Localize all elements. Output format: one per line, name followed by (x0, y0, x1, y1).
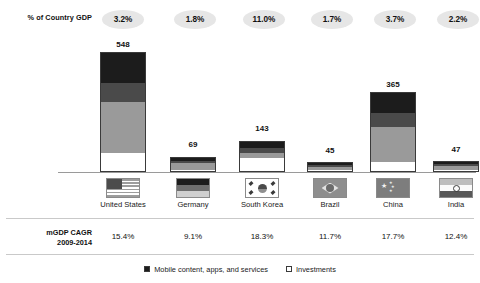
bar-value-india: 47 (433, 145, 479, 154)
bar-segment-4 (171, 170, 215, 171)
gdp-pill-china: 3.7% (374, 10, 416, 29)
bar-segment-3 (371, 127, 415, 162)
gdp-pill-brazil: 1.7% (311, 10, 353, 29)
country-label-brazil: Brazil (301, 200, 359, 209)
bar-stack-china (370, 92, 416, 172)
country-flags-row: United States Germany South Korea Brazil (0, 178, 480, 216)
cagr-value-india: 12.4% (427, 232, 480, 241)
bar-group-india[interactable]: 47 (433, 32, 479, 172)
flag-united-states-icon (106, 178, 140, 198)
bar-value-germany: 69 (170, 140, 216, 149)
country-cell-brazil[interactable]: Brazil (301, 178, 359, 209)
bar-stack-united-states (100, 52, 146, 172)
flag-south-korea-icon (245, 178, 279, 198)
cagr-value-germany: 9.1% (164, 232, 222, 241)
bar-stack-germany (170, 157, 216, 172)
bar-value-china: 365 (370, 80, 416, 89)
bar-group-south-korea[interactable]: 143 (239, 32, 285, 172)
cagr-row: mGDP CAGR2009-2014 15.4% 9.1% 18.3% 11.7… (0, 222, 480, 252)
table-divider-top (6, 218, 474, 219)
plot-area: mGDP contribution to GDP in 2014 ($billi… (0, 32, 480, 174)
cagr-value-south-korea: 18.3% (233, 232, 291, 241)
gdp-pill-south-korea: 11.0% (243, 10, 285, 29)
flag-india-icon (439, 178, 473, 198)
country-label-south-korea: South Korea (233, 200, 291, 209)
gdp-pill-united-states: 3.2% (102, 10, 144, 29)
bar-stack-south-korea (239, 141, 285, 172)
bar-segment-2 (101, 83, 145, 103)
country-label-china: China (364, 200, 422, 209)
gdp-percentage-row-label: % of Country GDP (6, 13, 92, 22)
legend-label-mobile-content: Mobile content, apps, and services (154, 265, 268, 274)
bar-group-germany[interactable]: 69 (170, 32, 216, 172)
flag-brazil-icon (313, 178, 347, 198)
mgdp-contribution-chart: % of Country GDP 3.2% 1.8% 11.0% 1.7% 3.… (0, 0, 480, 283)
legend-label-investments: Investments (296, 265, 336, 274)
chart-legend: Mobile content, apps, and services Inves… (0, 262, 480, 276)
bar-segment-4 (101, 153, 145, 171)
bar-group-brazil[interactable]: 45 (307, 32, 353, 172)
country-cell-germany[interactable]: Germany (164, 178, 222, 209)
country-label-united-states: United States (94, 200, 152, 209)
bar-stack-brazil (307, 162, 353, 172)
cagr-value-brazil: 11.7% (301, 232, 359, 241)
legend-item-mobile-content[interactable]: Mobile content, apps, and services (144, 265, 268, 274)
country-label-germany: Germany (164, 200, 222, 209)
bar-segment-2 (371, 113, 415, 127)
bar-segment-4 (434, 170, 478, 171)
country-cell-china[interactable]: ★ ★ ★ ★ China (364, 178, 422, 209)
gdp-pill-germany: 1.8% (174, 10, 216, 29)
bar-segment-1 (371, 93, 415, 113)
x-axis-baseline (58, 172, 476, 173)
bar-stack-india (433, 161, 479, 172)
bar-segment-1 (101, 53, 145, 83)
bar-segment-3 (101, 102, 145, 153)
bar-group-china[interactable]: 365 (370, 32, 416, 172)
cagr-value-china: 17.7% (364, 232, 422, 241)
country-label-india: India (427, 200, 480, 209)
bar-segment-4 (240, 158, 284, 171)
table-divider-bottom (6, 254, 474, 255)
white-square-icon (286, 266, 292, 272)
country-cell-united-states[interactable]: United States (94, 178, 152, 209)
black-square-icon (144, 266, 150, 272)
bar-value-brazil: 45 (307, 146, 353, 155)
country-cell-south-korea[interactable]: South Korea (233, 178, 291, 209)
country-cell-india[interactable]: India (427, 178, 480, 209)
flag-germany-icon (176, 178, 210, 198)
bar-group-united-states[interactable]: 548 (100, 32, 146, 172)
legend-item-investments[interactable]: Investments (286, 265, 336, 274)
bar-segment-4 (371, 162, 415, 171)
cagr-value-united-states: 15.4% (94, 232, 152, 241)
flag-china-icon: ★ ★ ★ ★ (376, 178, 410, 198)
bar-segment-4 (308, 170, 352, 171)
gdp-pill-india: 2.2% (437, 10, 479, 29)
bar-value-south-korea: 143 (239, 124, 285, 133)
cagr-row-label: mGDP CAGR2009-2014 (6, 228, 92, 247)
gdp-percentage-row: % of Country GDP 3.2% 1.8% 11.0% 1.7% 3.… (0, 8, 480, 32)
bar-value-united-states: 548 (100, 40, 146, 49)
